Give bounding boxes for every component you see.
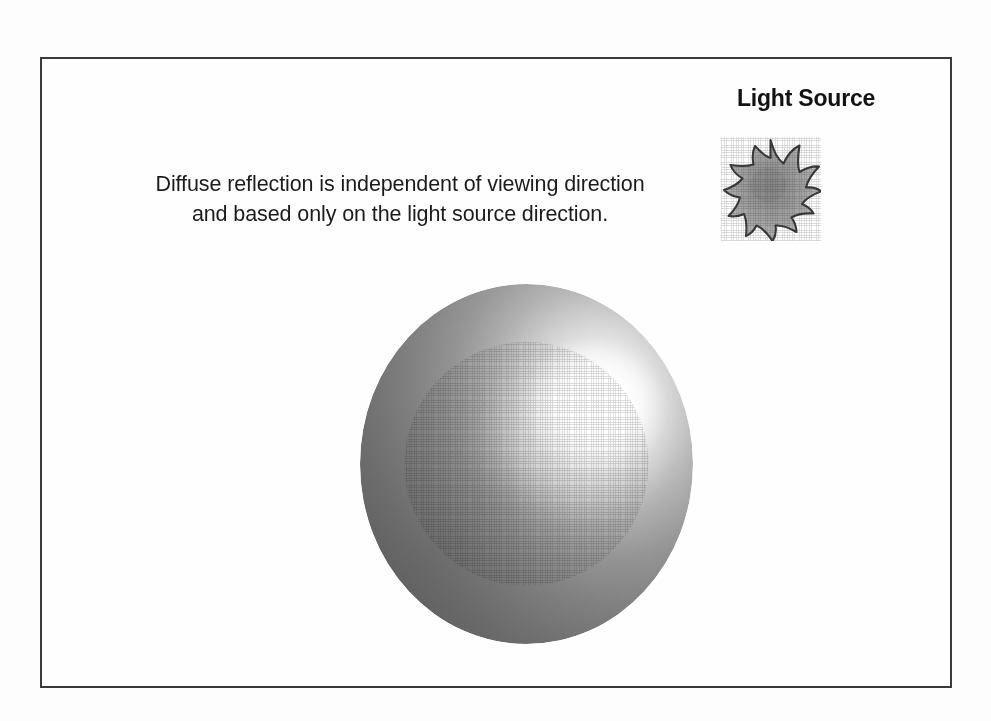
sun-core-shade xyxy=(750,168,786,202)
caption-text: Diffuse reflection is independent of vie… xyxy=(120,169,680,229)
light-source-label: Light Source xyxy=(691,85,921,112)
diffuse-shaded-sphere xyxy=(360,284,693,644)
caption-line-2: and based only on the light source direc… xyxy=(120,199,680,229)
slide-frame: Light Source Diffuse reflection is indep… xyxy=(40,57,952,688)
caption-line-1: Diffuse reflection is independent of vie… xyxy=(120,169,680,199)
sphere-highlight-bloom xyxy=(470,338,678,530)
sun-starburst-icon xyxy=(721,137,821,241)
